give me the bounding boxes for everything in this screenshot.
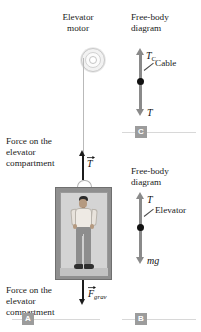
fbd-elevator-up-force-label: T <box>147 194 153 205</box>
fbd-cable-down-arrowhead <box>136 109 144 116</box>
person-shoe-left <box>74 264 84 269</box>
fbd-elevator-heading: Free-body diagram <box>131 166 197 188</box>
fbd-cable-point-mass <box>137 78 144 85</box>
elevator-floor <box>60 268 108 276</box>
fbd-cable-object-label: Cable <box>155 58 201 69</box>
fbd-elevator-point-mass <box>137 224 144 231</box>
fbd-cable-down-force-label: T <box>147 107 153 118</box>
gravity-subscript: grav <box>94 293 106 300</box>
fbd-elevator-down-arrowhead <box>136 257 144 264</box>
marker-row-b: B <box>122 313 196 325</box>
fbd-elevator-object-label: Elevator <box>155 205 201 216</box>
person-shoe-right <box>84 264 94 269</box>
tension-arrow-head <box>79 150 85 156</box>
vector-arrow-overbar-icon <box>87 155 95 159</box>
marker-line-b <box>122 319 196 320</box>
tension-arrow-shaft <box>82 156 84 180</box>
fbd-elevator-up-arrowhead <box>136 192 144 199</box>
marker-row-c: C <box>122 126 196 138</box>
elevator-motor-label: Elevator motor <box>38 12 118 34</box>
person-leg-right <box>84 232 91 265</box>
fbd-elevator-leader-line <box>144 209 154 217</box>
marker-row-a: A <box>12 313 100 325</box>
gravity-vector-label: Fgrav <box>88 288 107 300</box>
gravity-arrow-shaft <box>82 280 84 301</box>
tension-letter: T <box>87 158 93 169</box>
gravity-arrow-head <box>79 299 85 305</box>
marker-badge-c: C <box>135 126 147 138</box>
marker-line-c <box>122 132 196 133</box>
force-on-compartment-top-label: Force on the elevator compartment <box>6 136 76 169</box>
gravity-letter: F <box>88 288 94 299</box>
fbd-cable-heading: Free-body diagram <box>131 12 197 34</box>
fbd-cable-up-arrowhead <box>136 48 144 55</box>
person-leg-gap <box>82 236 84 264</box>
marker-badge-a: A <box>22 313 34 325</box>
marker-badge-b: B <box>135 313 147 325</box>
pulley-hub-icon <box>89 56 97 64</box>
person-torso <box>75 208 92 228</box>
vector-arrow-overbar-icon-2 <box>88 285 96 289</box>
fbd-elevator-down-force-label: mg <box>147 255 159 266</box>
fbd-cable-leader-line <box>144 63 154 71</box>
figure-canvas: Elevator motor Force on the elevator com… <box>0 0 201 332</box>
tension-vector-label: T <box>87 158 93 169</box>
